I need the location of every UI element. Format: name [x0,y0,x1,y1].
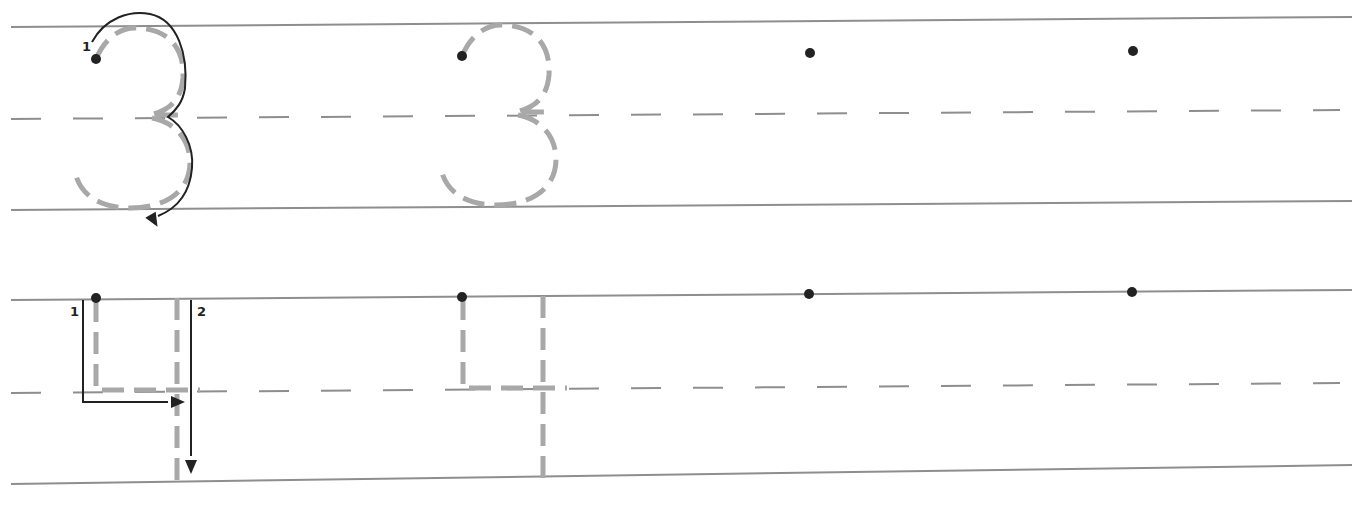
practice-start-dot [1128,46,1138,56]
start-dot [457,51,467,61]
practice-start-dot [804,289,814,299]
handwriting-worksheet: 112 [0,0,1357,512]
start-dot [457,292,467,302]
practice-start-dot [1127,287,1137,297]
stroke-order-label: 2 [197,304,206,319]
stroke-order-label: 1 [82,39,91,54]
stroke-order-label: 1 [70,304,79,319]
practice-start-dot [805,48,815,58]
start-dot [91,293,101,303]
start-dot [91,54,101,64]
paper-background [0,0,1357,512]
